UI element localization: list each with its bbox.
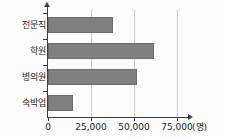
- y-tick-1: [43, 39, 48, 40]
- y-tick-0: [43, 13, 48, 14]
- x-tick-label-2: 50,000: [118, 122, 150, 133]
- x-tick-50000: [134, 117, 135, 121]
- x-tick-25000: [91, 117, 92, 121]
- category-label-0: 전문직: [22, 20, 46, 30]
- gridline-50000: [134, 10, 135, 117]
- y-tick-3: [43, 91, 48, 92]
- category-label-3: 숙박업: [22, 98, 46, 108]
- y-tick-2: [43, 65, 48, 66]
- bar-0: [48, 17, 113, 33]
- x-axis-arrow-icon: [188, 114, 193, 120]
- x-tick-label-0: 0: [45, 122, 51, 133]
- x-tick-75000: [177, 117, 178, 121]
- x-axis-unit-label: (명): [192, 122, 207, 133]
- x-tick-label-1: 25,000: [75, 122, 107, 133]
- gridline-75000: [177, 10, 178, 117]
- x-tick-label-3: 75,000: [161, 122, 193, 133]
- category-label-2: 병의원: [22, 72, 46, 82]
- bar-3: [48, 95, 73, 111]
- category-label-1: 학원: [30, 46, 46, 56]
- bar-2: [48, 69, 137, 85]
- bar-chart: 전문직 학원 병의원 숙박업 0 25,000 50,000 75,000 (명…: [0, 0, 228, 139]
- x-axis-line: [47, 117, 189, 118]
- bar-1: [48, 43, 154, 59]
- x-tick-0: [48, 117, 49, 121]
- y-axis-arrow-icon: [44, 2, 50, 7]
